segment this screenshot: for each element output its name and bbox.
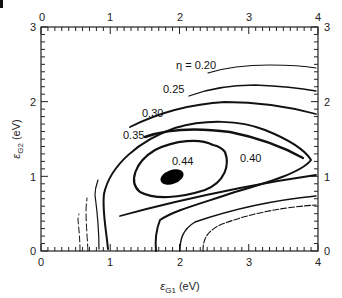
peak-region-0.44 xyxy=(158,166,185,187)
contour-chart: 0 1 2 3 4 0 1 2 3 4 0 1 2 3 0 1 2 3 εG1 … xyxy=(0,0,342,298)
contour-left-3 xyxy=(78,214,80,251)
contour-label: 0.30 xyxy=(142,107,163,119)
top-tick-label: 0 xyxy=(39,11,45,23)
left-tick-labels: 0 1 2 3 xyxy=(30,21,36,257)
top-tick-label: 2 xyxy=(177,11,183,23)
y-axis-label: εG2 (eV) xyxy=(10,119,25,158)
y-tick-label: 2 xyxy=(30,96,36,108)
contour-label: 0.44 xyxy=(172,155,193,167)
right-tick-label: 0 xyxy=(324,245,330,257)
top-tick-labels: 0 1 2 3 4 xyxy=(39,11,321,23)
x-tick-label: 4 xyxy=(315,256,321,268)
contour-lower-3 xyxy=(203,205,316,251)
contour-left-1 xyxy=(95,180,99,249)
contour-0.25 xyxy=(189,85,316,96)
y-tick-label: 0 xyxy=(30,245,36,257)
right-tick-label: 3 xyxy=(324,21,330,33)
contour-label: 0.35 xyxy=(123,129,144,141)
contour-lines xyxy=(78,65,316,251)
x-tick-label: 1 xyxy=(107,256,113,268)
right-tick-labels: 0 1 2 3 xyxy=(324,21,330,257)
y-tick-label: 3 xyxy=(30,21,36,33)
top-tick-label: 3 xyxy=(246,11,252,23)
top-tick-label: 1 xyxy=(107,11,113,23)
contour-label: 0.25 xyxy=(163,83,184,95)
y-tick-label: 1 xyxy=(30,171,36,183)
right-tick-label: 2 xyxy=(324,96,330,108)
contour-labels: η = 0.20 0.25 0.30 0.35 0.40 0.44 xyxy=(123,59,261,167)
contour-0.40 xyxy=(134,141,227,197)
contour-label: 0.40 xyxy=(240,152,261,164)
x-axis-label: εG1 (eV) xyxy=(160,280,199,295)
right-tick-label: 1 xyxy=(324,171,330,183)
contour-left-2 xyxy=(86,198,88,251)
x-tick-label: 0 xyxy=(38,256,44,268)
x-tick-label: 2 xyxy=(177,256,183,268)
bottom-tick-labels: 0 1 2 3 4 xyxy=(38,256,321,268)
contour-label: η = 0.20 xyxy=(176,59,216,71)
top-tick-label: 4 xyxy=(315,11,321,23)
contour-0.20 xyxy=(208,65,316,73)
x-tick-label: 3 xyxy=(246,256,252,268)
